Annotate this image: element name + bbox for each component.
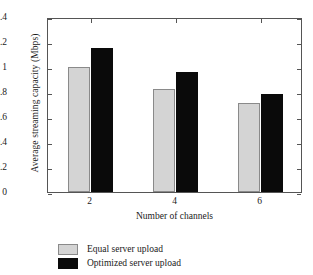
y-axis-tick xyxy=(48,169,52,170)
bar xyxy=(261,94,283,192)
legend-label: Equal server upload xyxy=(87,245,163,255)
legend-swatch-icon xyxy=(58,244,78,255)
legend-item: Equal server upload xyxy=(58,243,181,256)
y-axis-tick-label: 1.2 xyxy=(0,38,7,48)
y-axis-tick xyxy=(297,144,301,145)
y-axis-tick-label: 0.2 xyxy=(0,163,7,173)
y-axis-tick-label: 0.6 xyxy=(0,113,7,123)
y-axis-tick-label: 0 xyxy=(0,188,7,198)
y-axis-tick xyxy=(48,119,52,120)
y-axis-tick xyxy=(48,19,52,20)
bar xyxy=(68,67,90,192)
x-axis-tick-label: 4 xyxy=(160,197,190,207)
x-axis-tick-label: 6 xyxy=(245,197,275,207)
y-axis-tick xyxy=(297,19,301,20)
y-axis-tick xyxy=(297,169,301,170)
chart-legend: Equal server uploadOptimized server uplo… xyxy=(58,243,181,271)
y-axis-tick-label: 0.8 xyxy=(0,88,7,98)
y-axis-tick xyxy=(48,94,52,95)
x-axis-title: Number of channels xyxy=(47,211,302,221)
y-axis-tick xyxy=(48,194,52,195)
y-axis-tick xyxy=(297,94,301,95)
y-axis-tick-label: 0.4 xyxy=(0,138,7,148)
y-axis-title: Average streaming capacity (Mbps) xyxy=(30,13,40,193)
legend-label: Optimized server upload xyxy=(87,259,181,269)
y-axis-tick xyxy=(297,194,301,195)
y-axis-tick xyxy=(297,119,301,120)
y-axis-tick xyxy=(297,44,301,45)
y-axis-tick-label: 1 xyxy=(0,63,7,73)
bar xyxy=(91,48,113,192)
legend-swatch-icon xyxy=(58,258,78,269)
y-axis-tick xyxy=(297,69,301,70)
x-axis-tick xyxy=(91,19,92,23)
y-axis-tick-label: 1.4 xyxy=(0,13,7,23)
bar xyxy=(176,72,198,192)
legend-item: Optimized server upload xyxy=(58,257,181,270)
plot-area xyxy=(47,18,302,193)
x-axis-tick xyxy=(261,19,262,23)
y-axis-tick xyxy=(48,144,52,145)
bar xyxy=(153,89,175,192)
x-axis-tick xyxy=(176,19,177,23)
y-axis-tick xyxy=(48,69,52,70)
y-axis-tick xyxy=(48,44,52,45)
chart-figure: Average streaming capacity (Mbps) 00.20.… xyxy=(0,0,313,275)
bar xyxy=(238,103,260,192)
x-axis-tick-label: 2 xyxy=(75,197,105,207)
